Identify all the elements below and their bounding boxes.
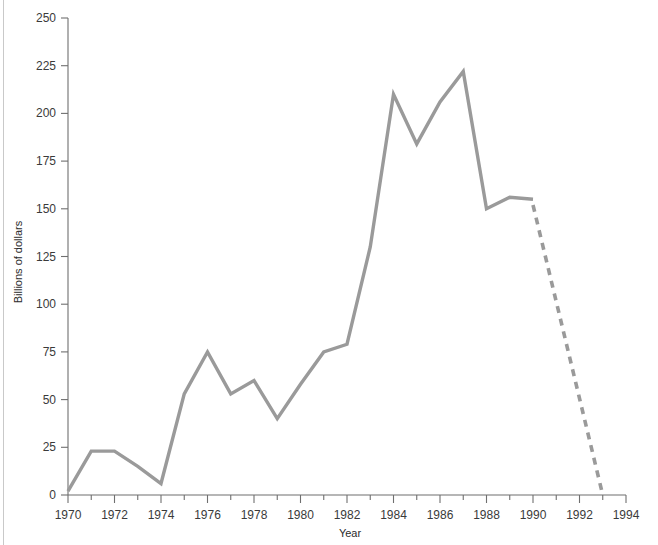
x-tick-label: 1982 xyxy=(334,508,361,522)
x-tick-label: 1986 xyxy=(427,508,454,522)
x-tick-label: 1984 xyxy=(380,508,407,522)
x-axis-title: Year xyxy=(339,527,362,539)
y-tick-label: 125 xyxy=(36,250,56,264)
x-tick-label: 1980 xyxy=(287,508,314,522)
y-tick-label: 225 xyxy=(36,59,56,73)
x-tick-label: 1970 xyxy=(55,508,82,522)
line-chart: 0255075100125150175200225250 19701972197… xyxy=(0,0,658,545)
y-tick-label: 200 xyxy=(36,106,56,120)
series-line-projected xyxy=(533,205,603,495)
x-tick-label: 1994 xyxy=(613,508,640,522)
x-tick-label: 1974 xyxy=(148,508,175,522)
y-tick-label: 150 xyxy=(36,202,56,216)
x-tick-label: 1976 xyxy=(194,508,221,522)
chart-container: 0255075100125150175200225250 19701972197… xyxy=(0,0,658,545)
x-axis: 1970197219741976197819801982198419861988… xyxy=(55,495,640,522)
x-tick-label: 1978 xyxy=(241,508,268,522)
y-axis: 0255075100125150175200225250 xyxy=(36,11,68,502)
data-series-group xyxy=(68,71,603,495)
series-line-actual xyxy=(68,71,533,491)
x-tick-label: 1990 xyxy=(520,508,547,522)
y-tick-label: 250 xyxy=(36,11,56,25)
y-tick-label: 75 xyxy=(43,345,57,359)
x-tick-label: 1988 xyxy=(473,508,500,522)
x-tick-label: 1992 xyxy=(566,508,593,522)
y-tick-label: 50 xyxy=(43,393,57,407)
y-tick-label: 100 xyxy=(36,297,56,311)
y-tick-label: 25 xyxy=(43,440,57,454)
y-axis-title: Billions of dollars xyxy=(12,220,24,303)
y-tick-label: 0 xyxy=(49,488,56,502)
x-tick-label: 1972 xyxy=(101,508,128,522)
y-tick-label: 175 xyxy=(36,154,56,168)
